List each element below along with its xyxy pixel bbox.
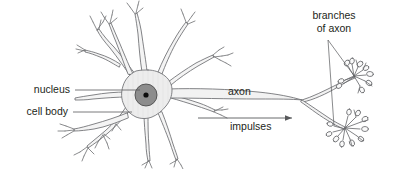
upper-axon-branch-stem [302,76,355,102]
dendrite-top-center-twigs [127,1,143,14]
terminal-bouton [325,131,332,138]
upper-axon-branch [335,58,373,94]
terminal-bouton [349,58,355,65]
terminal-bouton [332,135,340,143]
terminal-bouton [362,65,369,72]
label-impulses: impulses [230,120,271,132]
dendrite-right-lower-twigs [214,107,228,118]
nucleolus [143,92,148,97]
neuron-diagram: nucleus cell body axon impulses branches… [0,0,397,169]
dendrite-mid-right-twigs [213,47,233,66]
arrow-head [285,115,292,121]
dendrite-top-center [135,13,147,72]
label-branches-of-axon-line2: of axon [317,22,352,34]
label-cell-body: cell body [27,105,69,117]
dendrite-upper-right [158,22,188,74]
label-nucleus: nucleus [34,83,70,95]
dendrite-upper-right-twigs [181,9,195,24]
terminal-bouton [346,109,352,116]
dendrite-left [75,92,127,100]
dendrite-lower-right [158,112,178,160]
label-branches-of-axon-line1: branches [312,9,355,21]
label-axon: axon [228,85,251,97]
dendrite-lower-right-twigs [170,159,183,169]
branches-of-axon-leader-lower [328,40,334,126]
lower-axon-branch-stem [301,100,345,129]
terminal-bouton [339,141,345,148]
terminal-bouton [362,127,369,132]
dendrite-mid-right [168,55,214,85]
dendrite-lower-center [144,114,150,161]
dendrite-lower-center-twigs [142,161,152,168]
terminal-bouton [366,71,373,77]
lower-axon-branch [325,109,369,148]
